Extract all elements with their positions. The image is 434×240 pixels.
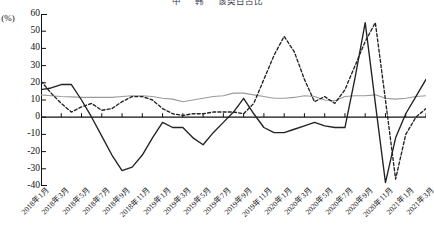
y-axis-label-text: (%) bbox=[1, 14, 15, 23]
legend-item: 韩 bbox=[195, 0, 204, 6]
y-tick-label: 60 bbox=[16, 9, 40, 19]
y-tick-label: 10 bbox=[16, 95, 40, 105]
y-tick-label: 20 bbox=[16, 78, 40, 88]
y-tick-label: -30 bbox=[16, 164, 40, 174]
y-tick-label: 50 bbox=[16, 26, 40, 36]
y-axis-label: (%) bbox=[1, 14, 15, 23]
plot-area bbox=[41, 14, 426, 186]
legend-label: 该类目占比 bbox=[218, 0, 263, 6]
series-line-2 bbox=[41, 93, 426, 102]
legend-label: 中 bbox=[172, 0, 181, 6]
y-tick-label: 0 bbox=[16, 112, 40, 122]
legend-item: 中 bbox=[172, 0, 181, 6]
y-tick-label: -10 bbox=[16, 129, 40, 139]
legend-label: 韩 bbox=[195, 0, 204, 6]
y-tick-label: -20 bbox=[16, 147, 40, 157]
y-tick-label: -40 bbox=[16, 181, 40, 191]
y-tick-label: 30 bbox=[16, 61, 40, 71]
y-tick-label: 40 bbox=[16, 43, 40, 53]
series-line-0 bbox=[41, 23, 426, 183]
chart-svg bbox=[41, 14, 426, 186]
chart-figure: 中 韩 该类目占比 (%) 6050403020100-10-20-30-40 … bbox=[0, 0, 434, 240]
chart-legend: 中 韩 该类目占比 bbox=[0, 0, 434, 6]
legend-item: 该类目占比 bbox=[218, 0, 263, 6]
x-axis-ticks: 2018年1月2018年3月2018年5月2018年7月2018年9月2018年… bbox=[41, 186, 434, 240]
